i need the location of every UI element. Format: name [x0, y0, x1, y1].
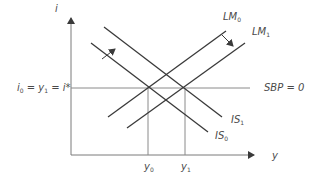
- y1-tick-label: y1: [181, 162, 191, 173]
- equilibrium-rate-label: i0 = y1 = i*: [17, 83, 71, 94]
- lm0-label: LM0: [223, 12, 241, 23]
- y-axis-label: i: [55, 4, 58, 14]
- lm1-label: LM1: [252, 27, 270, 38]
- sbp-label: SBP = 0: [264, 83, 304, 93]
- is1-label: IS1: [231, 115, 244, 126]
- is0-label: IS0: [215, 131, 228, 142]
- x-axis-label: y: [272, 151, 278, 161]
- is-shift-arrow-icon: [102, 49, 115, 59]
- lm-shift-arrow-icon: [222, 35, 233, 46]
- y0-tick-label: y0: [144, 162, 154, 173]
